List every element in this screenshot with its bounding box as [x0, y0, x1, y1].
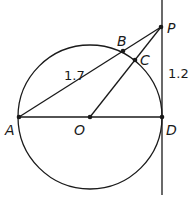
label-c: C [140, 52, 150, 68]
label-b: B [117, 33, 127, 49]
geometry-diagram: A O D B C P 1.7 1.2 [0, 0, 194, 206]
point-p [159, 25, 164, 30]
label-d: D [166, 122, 177, 138]
measure-pd: 1.2 [168, 66, 189, 81]
point-a [17, 115, 22, 120]
point-d [160, 115, 165, 120]
secant-ap [19, 27, 161, 117]
label-o: O [74, 122, 85, 138]
measure-ab: 1.7 [64, 68, 85, 83]
point-b [121, 49, 126, 54]
point-o [88, 115, 93, 120]
point-c [133, 58, 138, 63]
label-p: P [167, 20, 176, 36]
label-a: A [4, 122, 15, 138]
